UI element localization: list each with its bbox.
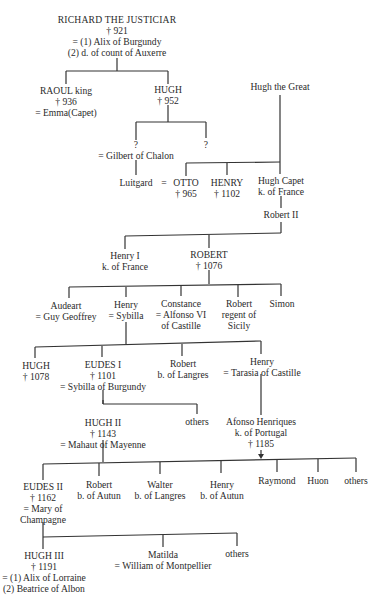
person-raoul: RAOUL king † 936 = Emma(Capet) xyxy=(35,85,97,118)
spouse-2: (2) Beatrice of Albon xyxy=(2,583,86,594)
spouse: = Mahaut of Mayenne xyxy=(60,439,146,450)
person-name: Raymond xyxy=(258,475,295,486)
spouse-2: (2) d. of count of Auxerre xyxy=(58,47,177,58)
person-henry-tarasia: Henry = Tarasia of Castille xyxy=(223,356,300,378)
person-huon: Huon xyxy=(307,475,328,486)
person-name: Luitgard xyxy=(119,177,152,188)
person-name: Henry xyxy=(109,299,144,310)
person-eudes-ii: EUDES II † 1162 = Mary of Champagne xyxy=(20,481,66,525)
person-name: Walter xyxy=(135,479,186,490)
death-year: † 936 xyxy=(35,96,97,107)
person-others-1: others xyxy=(185,416,208,427)
person-name: Matilda xyxy=(115,549,212,560)
person-hugh-iii: HUGH III † 1191 = (1) Alix of Lorraine (… xyxy=(2,550,86,594)
person-name: others xyxy=(344,475,367,486)
spouse: = Guy Geoffrey xyxy=(35,311,96,322)
person-robert-1076: ROBERT † 1076 xyxy=(190,249,227,271)
person-name: HENRY xyxy=(211,177,244,188)
person-henry-autun: Henry b. of Autun xyxy=(200,479,243,501)
person-name: OTTO xyxy=(173,177,198,188)
person-name: Audeart xyxy=(35,300,96,311)
person-robert-ii: Robert II xyxy=(264,209,299,220)
person-name: HUGH III xyxy=(2,550,86,561)
spouse-cont: Champagne xyxy=(20,514,66,525)
person-name: Henry xyxy=(223,356,300,367)
title: k. of France xyxy=(102,261,148,272)
person-name: Huon xyxy=(307,475,328,486)
person-henry-1102: HENRY † 1102 xyxy=(211,177,244,199)
person-name: Robert II xyxy=(264,209,299,220)
death-year: † 1078 xyxy=(22,371,50,382)
person-unknown-1: ? = Gilbert of Chalon xyxy=(98,139,174,161)
death-year: † 1185 xyxy=(226,438,296,449)
spouse: = William of Montpellier xyxy=(115,560,212,571)
person-robert-autun: Robert b. of Autun xyxy=(77,479,120,501)
title: k. of France xyxy=(258,186,304,197)
title: b. of Autun xyxy=(77,490,120,501)
person-name: RAOUL king xyxy=(35,85,97,96)
person-name: HUGH xyxy=(22,360,50,371)
title-cont: Sicily xyxy=(222,320,256,331)
death-year: † 1102 xyxy=(211,188,244,199)
spouse-cont: of Castille xyxy=(156,320,207,331)
person-others-3: others xyxy=(225,548,248,559)
person-eudes-i: EUDES I † 1101 = Sybilla of Burgundy xyxy=(60,359,146,392)
person-luitgard: Luitgard xyxy=(119,177,152,188)
spouse: = Emma(Capet) xyxy=(35,107,97,118)
person-otto: OTTO † 965 xyxy=(173,177,198,199)
person-name: ROBERT xyxy=(190,249,227,260)
title: k. of Portugal xyxy=(226,427,296,438)
death-year: † 952 xyxy=(154,95,182,106)
person-afonso-henriques: Afonso Henriques k. of Portugal † 1185 xyxy=(226,416,296,449)
person-name: Afonso Henriques xyxy=(226,416,296,427)
person-name: EUDES I xyxy=(60,359,146,370)
person-name: HUGH II xyxy=(60,417,146,428)
person-name: Robert xyxy=(158,358,209,369)
person-raymond: Raymond xyxy=(258,475,295,486)
title: regent of xyxy=(222,309,256,320)
person-matilda: Matilda = William of Montpellier xyxy=(115,549,212,571)
death-year: † 1143 xyxy=(60,428,146,439)
spouse: = Mary of xyxy=(20,503,66,514)
person-hugh-the-great: Hugh the Great xyxy=(250,81,309,92)
spouse: = Sybilla xyxy=(109,310,144,321)
person-name: Robert xyxy=(77,479,120,490)
person-hugh-952: HUGH † 952 xyxy=(154,84,182,106)
person-unknown-2: ? xyxy=(204,139,208,150)
person-henry-sybilla: Henry = Sybilla xyxy=(109,299,144,321)
equals-sign: = xyxy=(161,177,166,188)
person-hugh-1078: HUGH † 1078 xyxy=(22,360,50,382)
death-year: † 1101 xyxy=(60,370,146,381)
person-name: Henry xyxy=(200,479,243,490)
person-audeart: Audeart = Guy Geoffrey xyxy=(35,300,96,322)
title: b. of Langres xyxy=(158,369,209,380)
person-name: Hugh the Great xyxy=(250,81,309,92)
spouse-1: = (1) Alix of Lorraine xyxy=(2,572,86,583)
person-name: Robert xyxy=(222,298,256,309)
person-name: Hugh Capet xyxy=(258,175,304,186)
person-hugh-capet: Hugh Capet k. of France xyxy=(258,175,304,197)
person-name: others xyxy=(185,416,208,427)
person-name: Henry I xyxy=(102,250,148,261)
death-year: † 1076 xyxy=(190,260,227,271)
person-name: EUDES II xyxy=(20,481,66,492)
spouse: = Sybilla of Burgundy xyxy=(60,381,146,392)
spouse-1: = (1) Alix of Burgundy xyxy=(58,36,177,47)
spouse: = Gilbert of Chalon xyxy=(98,150,174,161)
person-name: HUGH xyxy=(154,84,182,95)
death-year: † 921 xyxy=(58,25,177,36)
person-robert-sicily: Robert regent of Sicily xyxy=(222,298,256,331)
person-name: Constance xyxy=(156,298,207,309)
person-name: others xyxy=(225,548,248,559)
spouse: = Alfonso VI xyxy=(156,309,207,320)
person-robert-langres: Robert b. of Langres xyxy=(158,358,209,380)
death-year: † 1162 xyxy=(20,492,66,503)
title: b. of Autun xyxy=(200,490,243,501)
title: b. of Langres xyxy=(135,490,186,501)
person-simon: Simon xyxy=(269,298,294,309)
person-hugh-ii: HUGH II † 1143 = Mahaut of Mayenne xyxy=(60,417,146,450)
person-others-2: others xyxy=(344,475,367,486)
person-name: Simon xyxy=(269,298,294,309)
person-henry-i: Henry I k. of France xyxy=(102,250,148,272)
person-name: ? xyxy=(98,139,174,150)
